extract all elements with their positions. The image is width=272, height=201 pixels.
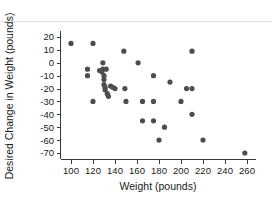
data-point — [189, 86, 194, 91]
x-tick-label: 100 — [63, 165, 79, 176]
y-tick-label: -50 — [40, 122, 54, 133]
x-tick-label: 240 — [217, 165, 233, 176]
data-point — [140, 99, 145, 104]
data-point — [242, 150, 247, 155]
y-tick-label: -60 — [40, 135, 54, 146]
y-tick-label: -20 — [40, 83, 54, 94]
y-axis-title: Desired Change in Weight (pounds) — [3, 13, 15, 180]
data-point — [156, 138, 161, 143]
data-point — [189, 112, 194, 117]
data-point — [68, 41, 73, 46]
data-point — [162, 125, 167, 130]
y-tick-label: 20 — [43, 31, 54, 42]
data-point — [106, 94, 111, 99]
x-tick-label: 200 — [173, 165, 189, 176]
data-point — [140, 118, 145, 123]
data-point — [85, 73, 90, 78]
data-point — [100, 60, 105, 65]
data-point — [90, 99, 95, 104]
data-point — [151, 73, 156, 78]
data-point — [200, 138, 205, 143]
data-point — [178, 99, 183, 104]
y-axis-tick-marks — [57, 38, 61, 154]
y-axis-tick-labels: 20100-10-20-30-40-50-60-70 — [40, 31, 54, 158]
x-tick-label: 120 — [85, 165, 101, 176]
data-point — [101, 77, 106, 82]
x-axis-title: Weight (pounds) — [120, 180, 197, 192]
y-tick-label: 10 — [43, 44, 54, 55]
x-tick-label: 180 — [151, 165, 167, 176]
data-points-group — [68, 41, 247, 156]
data-point — [104, 67, 109, 72]
data-point — [151, 118, 156, 123]
x-axis-tick-labels: 100120140160180200220240260 — [63, 165, 255, 176]
y-tick-label: -70 — [40, 147, 54, 158]
y-tick-label: -10 — [40, 70, 54, 81]
y-tick-label: 0 — [49, 57, 54, 68]
data-point — [151, 99, 156, 104]
data-point — [85, 67, 90, 72]
data-point — [112, 86, 117, 91]
data-point — [122, 86, 127, 91]
x-tick-label: 140 — [107, 165, 123, 176]
x-axis-tick-marks — [72, 160, 248, 164]
data-point — [167, 80, 172, 85]
x-tick-label: 220 — [195, 165, 211, 176]
scatter-plot-figure: 20100-10-20-30-40-50-60-70 1001201401601… — [0, 0, 272, 201]
data-point — [184, 86, 189, 91]
data-point — [121, 49, 126, 54]
data-point — [123, 99, 128, 104]
data-point — [90, 41, 95, 46]
x-tick-label: 260 — [239, 165, 255, 176]
data-point — [136, 60, 141, 65]
y-tick-label: -30 — [40, 96, 54, 107]
plot-canvas: 20100-10-20-30-40-50-60-70 1001201401601… — [0, 0, 272, 201]
data-point — [189, 49, 194, 54]
x-tick-label: 160 — [129, 165, 145, 176]
y-tick-label: -40 — [40, 109, 54, 120]
